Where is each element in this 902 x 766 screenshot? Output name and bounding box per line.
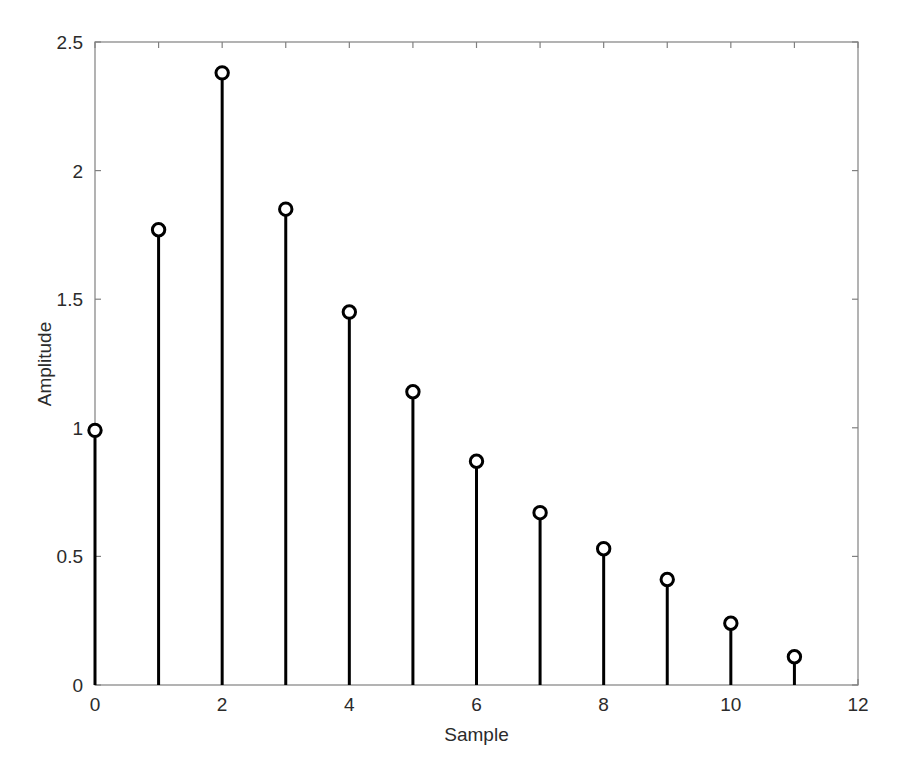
stem-item — [216, 67, 228, 685]
stem-item — [152, 224, 164, 685]
stem-item — [343, 306, 355, 685]
y-tick-label: 2 — [0, 161, 83, 180]
plot-canvas — [0, 0, 902, 766]
x-axis-title: Sample — [444, 725, 508, 744]
x-tick-label: 6 — [471, 695, 482, 714]
stem-series — [89, 67, 801, 685]
y-axis-title: Amplitude — [35, 321, 54, 406]
x-tick-label: 10 — [720, 695, 741, 714]
stem-marker — [661, 573, 673, 585]
stem-item — [470, 455, 482, 685]
x-tick-label: 12 — [847, 695, 868, 714]
stem-item — [89, 424, 101, 685]
stem-item — [597, 542, 609, 685]
stem-item — [788, 651, 800, 685]
x-tick-label: 4 — [344, 695, 355, 714]
stem-marker — [152, 224, 164, 236]
x-tick-label: 8 — [598, 695, 609, 714]
stem-marker — [216, 67, 228, 79]
stem-marker — [470, 455, 482, 467]
y-tick-label: 0.5 — [0, 547, 83, 566]
stem-item — [407, 386, 419, 685]
stem-item — [534, 506, 546, 685]
stem-marker — [725, 617, 737, 629]
stem-item — [725, 617, 737, 685]
y-tick-label: 1.5 — [0, 290, 83, 309]
stem-marker — [534, 506, 546, 518]
stem-marker — [407, 386, 419, 398]
stem-marker — [343, 306, 355, 318]
stem-plot-figure: 00.511.522.5024681012 Sample Amplitude — [0, 0, 902, 766]
x-tick-label: 0 — [90, 695, 101, 714]
stem-item — [280, 203, 292, 685]
y-tick-label: 0 — [0, 676, 83, 695]
stem-marker — [89, 424, 101, 436]
y-tick-label: 1 — [0, 418, 83, 437]
y-tick-label: 2.5 — [0, 33, 83, 52]
stem-marker — [280, 203, 292, 215]
x-tick-label: 2 — [217, 695, 228, 714]
stem-marker — [788, 651, 800, 663]
stem-item — [661, 573, 673, 685]
stem-marker — [597, 542, 609, 554]
